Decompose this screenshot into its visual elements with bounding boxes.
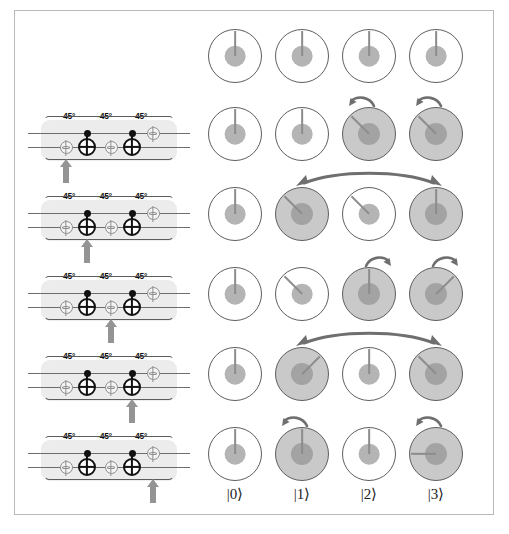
state-dial-grid: |0⟩|1⟩|2⟩|3⟩ <box>200 11 495 514</box>
dial-outer-circle <box>275 267 329 321</box>
dial-outer-circle <box>275 187 329 241</box>
circuit-panel-step-5: 45°-45°45° <box>41 431 177 481</box>
dial-phase-needle <box>301 429 303 454</box>
cnot-control-dot-icon <box>129 130 136 137</box>
phase-gate-3-icon <box>147 207 160 220</box>
circuit-brace <box>44 356 174 366</box>
dial-outer-circle <box>342 29 396 83</box>
phase-gate-1-icon <box>60 141 73 154</box>
state-dial-r4-c3 <box>409 347 463 401</box>
dial-outer-circle <box>409 107 463 161</box>
dial-phase-needle <box>234 31 236 56</box>
state-dial-r3-c3 <box>409 267 463 321</box>
state-dial-r0-c3 <box>409 29 463 83</box>
state-dial-r2-c1 <box>275 187 329 241</box>
dial-outer-circle <box>208 267 262 321</box>
cnot-1-icon <box>78 218 96 236</box>
qubit-wire-1 <box>28 133 190 134</box>
state-dial-r0-c2 <box>342 29 396 83</box>
dial-outer-circle <box>409 347 463 401</box>
dial-phase-needle <box>368 269 370 294</box>
phase-clockwise-arrow-icon <box>431 254 461 270</box>
cnot-control-dot-icon <box>84 130 91 137</box>
state-dial-r2-c0 <box>208 187 262 241</box>
figure-caption <box>14 518 484 532</box>
phase-gate-2-icon <box>105 381 118 394</box>
dial-outer-circle <box>342 267 396 321</box>
cnot-control-dot-icon <box>129 370 136 377</box>
dial-phase-needle <box>234 109 236 134</box>
dial-outer-circle <box>275 347 329 401</box>
state-dial-r2-c2 <box>342 187 396 241</box>
cnot-2-icon <box>123 218 141 236</box>
circuit-panel-step-1: 45°-45°45° <box>41 111 177 161</box>
phase-gate-3-icon <box>147 367 160 380</box>
dial-phase-needle <box>435 189 437 214</box>
state-dial-r2-c3 <box>409 187 463 241</box>
dial-phase-needle <box>234 429 236 454</box>
phase-gate-2-icon <box>105 461 118 474</box>
dial-outer-circle <box>275 427 329 481</box>
circuit-brace <box>44 276 174 286</box>
cnot-control-dot-icon <box>84 210 91 217</box>
phase-counterclockwise-arrow-icon <box>413 94 443 110</box>
state-dial-r0-c0 <box>208 29 262 83</box>
phase-gate-2-icon <box>105 301 118 314</box>
state-swap-arrow-icon <box>292 169 446 189</box>
phase-gate-3-icon <box>147 287 160 300</box>
dial-outer-circle <box>342 427 396 481</box>
dial-phase-needle <box>301 109 303 134</box>
cnot-1-icon <box>78 138 96 156</box>
state-swap-arrow-icon <box>292 329 446 349</box>
phase-gate-1-icon <box>60 221 73 234</box>
cnot-1-icon <box>78 458 96 476</box>
cnot-1-icon <box>78 298 96 316</box>
figure-frame: 45°-45°45°45°-45°45°45°-45°45°45°-45°45°… <box>14 10 494 515</box>
state-dial-r3-c0 <box>208 267 262 321</box>
circuit-step-column: 45°-45°45°45°-45°45°45°-45°45°45°-45°45°… <box>15 11 200 514</box>
cnot-2-icon <box>123 138 141 156</box>
phase-gate-3-icon <box>147 447 160 460</box>
cnot-control-dot-icon <box>129 290 136 297</box>
state-dial-r4-c2 <box>342 347 396 401</box>
phase-gate-1-icon <box>60 461 73 474</box>
qubit-wire-1 <box>28 453 190 454</box>
qubit-wire-1 <box>28 373 190 374</box>
circuit-panel-step-4: 45°-45°45° <box>41 351 177 401</box>
dial-outer-circle <box>409 187 463 241</box>
dial-phase-needle <box>368 429 370 454</box>
dial-outer-circle <box>409 29 463 83</box>
dial-phase-needle <box>234 189 236 214</box>
cnot-control-dot-icon <box>84 290 91 297</box>
state-dial-r1-c0 <box>208 107 262 161</box>
dial-outer-circle <box>342 347 396 401</box>
circuit-brace <box>44 436 174 446</box>
phase-counterclockwise-arrow-icon <box>279 414 309 430</box>
state-dial-r0-c1 <box>275 29 329 83</box>
state-dial-r4-c0 <box>208 347 262 401</box>
dial-phase-needle <box>234 269 236 294</box>
dial-phase-needle <box>368 31 370 56</box>
dial-outer-circle <box>342 107 396 161</box>
cnot-1-icon <box>78 378 96 396</box>
state-dial-r5-c2 <box>342 427 396 481</box>
dial-outer-circle <box>208 427 262 481</box>
phase-gate-2-icon <box>105 221 118 234</box>
state-dial-r1-c3 <box>409 107 463 161</box>
dial-outer-circle <box>275 107 329 161</box>
dial-outer-circle <box>409 267 463 321</box>
phase-gate-1-icon <box>60 381 73 394</box>
dial-outer-circle <box>208 347 262 401</box>
cnot-2-icon <box>123 458 141 476</box>
phase-clockwise-arrow-icon <box>364 254 394 270</box>
state-dial-r3-c2 <box>342 267 396 321</box>
dial-phase-needle <box>435 31 437 56</box>
circuit-brace <box>44 116 174 126</box>
dial-outer-circle <box>275 29 329 83</box>
phase-gate-1-icon <box>60 301 73 314</box>
dial-outer-circle <box>208 187 262 241</box>
cnot-2-icon <box>123 298 141 316</box>
dial-phase-needle <box>234 349 236 374</box>
state-dial-r5-c3 <box>409 427 463 481</box>
state-dial-r4-c1 <box>275 347 329 401</box>
